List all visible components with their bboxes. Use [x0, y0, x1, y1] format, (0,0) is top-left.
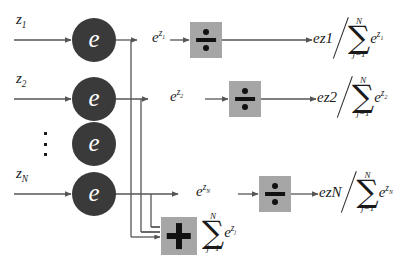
plus-sign-icon — [161, 217, 197, 255]
exp-node-N-label: e — [88, 179, 99, 207]
softmax-output-N: ezN N ∑ j=1 ezN — [319, 170, 393, 214]
denominator-term-N: ezN — [379, 185, 393, 200]
vertical-ellipsis-icon — [43, 132, 47, 156]
exp-node-3-label: e — [88, 129, 99, 157]
sum-term: ezj — [224, 225, 236, 240]
sigma-block: N ∑ j=1 — [351, 76, 374, 117]
input-zN-label: zN — [16, 166, 28, 181]
input-z2-label: z2 — [16, 71, 27, 86]
denominator-2: N ∑ j=1 ez2 — [351, 76, 387, 117]
denominator-term-2: ez2 — [374, 90, 387, 105]
divide-box-2 — [229, 81, 261, 117]
sigma-icon: ∑ — [348, 25, 370, 50]
sigma-block: N ∑ j=1 — [347, 17, 370, 58]
exp-node-1-label: e — [88, 25, 99, 53]
exp-node-3: e — [72, 122, 116, 166]
softmax-output-2: ez2 N ∑ j=1 ez2 — [317, 75, 387, 119]
sum-of-exponentials: N ∑ j=1 ezj — [201, 212, 236, 253]
numerator-2: ez2 — [317, 89, 338, 106]
input-z1-label: z1 — [16, 12, 27, 27]
plus-box — [161, 217, 197, 255]
fraction-slash — [338, 75, 351, 119]
numerator-N: ezN — [319, 184, 343, 201]
fraction-slash — [334, 16, 347, 60]
numerator-1: ez1 — [313, 30, 334, 47]
exp-output-1-label: ez1 — [152, 30, 165, 45]
division-sign-icon — [259, 176, 291, 212]
sigma-icon: ∑ — [202, 220, 224, 245]
exp-output-N-label: ezN — [196, 184, 210, 199]
softmax-output-1: ez1 N ∑ j=1 ez1 — [313, 16, 383, 60]
denominator-1: N ∑ j=1 ez1 — [347, 17, 383, 58]
exp-node-1: e — [72, 18, 116, 62]
exp-node-N: e — [72, 172, 116, 216]
softmax-diagram: z1 z2 zN e e e e ez1 ez2 ezN — [0, 0, 408, 271]
division-sign-icon — [190, 22, 222, 58]
denominator-N: N ∑ j=1 ezN — [356, 171, 393, 212]
exp-output-2-label: ez2 — [170, 89, 183, 104]
denominator-term-1: ez1 — [370, 31, 383, 46]
exp-node-2-label: e — [88, 84, 99, 112]
sigma-icon: ∑ — [352, 84, 374, 109]
sigma-block: N ∑ j=1 — [201, 212, 224, 253]
sigma-block: N ∑ j=1 — [356, 171, 379, 212]
divide-box-1 — [190, 22, 222, 58]
division-sign-icon — [229, 81, 261, 117]
fraction-slash — [343, 170, 356, 214]
sigma-icon: ∑ — [357, 179, 379, 204]
exp-node-2: e — [72, 77, 116, 121]
divide-box-N — [259, 176, 291, 212]
